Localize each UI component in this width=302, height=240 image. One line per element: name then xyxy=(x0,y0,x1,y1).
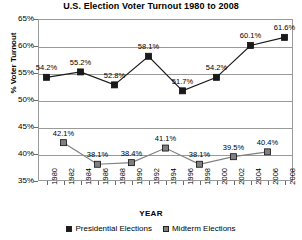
x-axis-tick-mark xyxy=(149,181,150,185)
y-axis-tick-label: 45% xyxy=(0,122,34,131)
y-axis-tick-label: 50% xyxy=(0,95,34,104)
x-axis-tick-label: 1990 xyxy=(135,168,144,208)
x-axis-tick-label: 1992 xyxy=(152,168,161,208)
y-axis-tick-label: 40% xyxy=(0,149,34,158)
data-point-label: 40.4% xyxy=(257,138,278,147)
x-axis-tick-label: 1984 xyxy=(84,168,93,208)
x-axis-tick-label: 1994 xyxy=(169,168,178,208)
x-axis-tick-label: 1982 xyxy=(67,168,76,208)
x-axis-tick-mark xyxy=(132,181,133,185)
x-axis-tick-mark xyxy=(285,181,286,185)
gridline xyxy=(39,74,292,75)
y-axis-tick-label: 65% xyxy=(0,14,34,23)
y-axis-tick-mark xyxy=(34,73,38,74)
data-point-label: 60.1% xyxy=(240,31,261,40)
data-point-label: 51.7% xyxy=(172,77,193,86)
x-axis-tick-label: 2008 xyxy=(288,168,297,208)
data-point-label: 61.6% xyxy=(274,23,295,32)
x-axis-tick-mark xyxy=(47,181,48,185)
x-axis-tick-mark xyxy=(183,181,184,185)
x-axis-tick-mark xyxy=(234,181,235,185)
data-point-label: 54.2% xyxy=(206,63,227,72)
data-point-label: 58.1% xyxy=(138,42,159,51)
y-axis-tick-mark xyxy=(34,127,38,128)
legend-label: Midterm Elections xyxy=(172,224,236,233)
gridline xyxy=(39,47,292,48)
x-axis-title: YEAR xyxy=(0,209,302,218)
data-point-label: 39.5% xyxy=(223,143,244,152)
x-axis-tick-mark xyxy=(115,181,116,185)
legend-swatch-icon xyxy=(66,226,72,232)
data-point-label: 42.1% xyxy=(53,129,74,138)
y-axis-tick-mark xyxy=(34,46,38,47)
y-axis-tick-mark xyxy=(34,100,38,101)
x-axis-tick-mark xyxy=(200,181,201,185)
y-axis-tick-label: 35% xyxy=(0,176,34,185)
x-axis-tick-label: 1980 xyxy=(50,168,59,208)
y-axis-tick-label: 55% xyxy=(0,68,34,77)
gridline xyxy=(39,101,292,102)
gridline xyxy=(39,155,292,156)
data-point-label: 54.2% xyxy=(36,63,57,72)
x-axis-tick-mark xyxy=(268,181,269,185)
x-axis-tick-label: 2004 xyxy=(254,168,263,208)
x-axis-tick-mark xyxy=(166,181,167,185)
data-point-label: 38.1% xyxy=(189,150,210,159)
x-axis-tick-label: 1988 xyxy=(118,168,127,208)
x-axis-tick-label: 2002 xyxy=(237,168,246,208)
x-axis-tick-mark xyxy=(217,181,218,185)
x-axis-tick-mark xyxy=(81,181,82,185)
data-point-label: 38.4% xyxy=(121,149,142,158)
x-axis-tick-label: 2000 xyxy=(220,168,229,208)
chart-title: U.S. Election Voter Turnout 1980 to 2008 xyxy=(0,1,302,11)
y-axis-tick-mark xyxy=(34,154,38,155)
gridline xyxy=(39,128,292,129)
x-axis-tick-mark xyxy=(251,181,252,185)
chart-legend: Presidential ElectionsMidterm Elections xyxy=(0,224,302,233)
legend-item[interactable]: Presidential Elections xyxy=(66,224,151,233)
y-axis-tick-label: 60% xyxy=(0,41,34,50)
x-axis-tick-label: 1986 xyxy=(101,168,110,208)
x-axis-tick-label: 2006 xyxy=(271,168,280,208)
legend-item[interactable]: Midterm Elections xyxy=(163,224,236,233)
legend-label: Presidential Elections xyxy=(75,224,151,233)
voter-turnout-chart: U.S. Election Voter Turnout 1980 to 2008… xyxy=(0,0,302,240)
x-axis-tick-label: 1998 xyxy=(203,168,212,208)
y-axis-tick-mark xyxy=(34,181,38,182)
x-axis-tick-label: 1996 xyxy=(186,168,195,208)
data-point-label: 41.1% xyxy=(155,134,176,143)
data-point-label: 55.2% xyxy=(70,58,91,67)
y-axis-tick-mark xyxy=(34,19,38,20)
legend-swatch-icon xyxy=(163,226,169,232)
x-axis-tick-mark xyxy=(98,181,99,185)
data-point-label: 38.1% xyxy=(87,150,108,159)
x-axis-tick-mark xyxy=(64,181,65,185)
data-point-label: 52.8% xyxy=(104,71,125,80)
plot-area xyxy=(38,19,293,181)
